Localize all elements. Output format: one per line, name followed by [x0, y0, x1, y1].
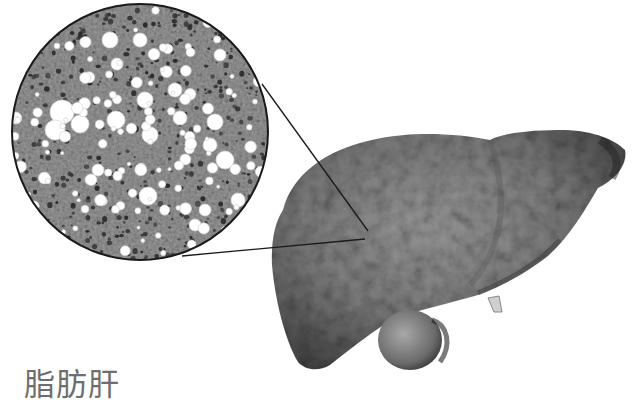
histology-inset	[0, 0, 290, 270]
caption-label: 脂肪肝	[24, 364, 120, 404]
illustration: 脂肪肝	[0, 0, 637, 415]
liver-image	[272, 130, 626, 370]
